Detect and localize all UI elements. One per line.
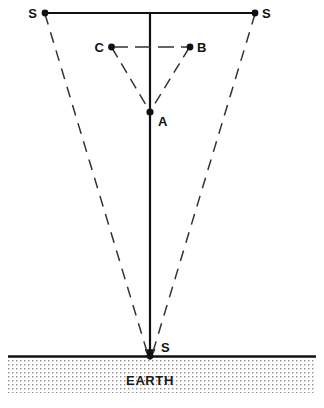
point-b-dot (187, 44, 194, 51)
source-ground-dot (147, 353, 154, 360)
source-ground-label: S (161, 340, 170, 355)
figure-root: EARTH S S C B A S (0, 0, 324, 408)
segment-b-to-a (151, 48, 189, 110)
source-left-label: S (28, 6, 37, 21)
source-right-label: S (262, 6, 271, 21)
ray-left-source-to-ground (45, 14, 148, 355)
parallax-diagram: EARTH S S C B A S (0, 0, 324, 408)
point-b-label: B (197, 40, 206, 55)
source-left-dot (42, 10, 49, 17)
earth-label: EARTH (126, 373, 174, 388)
caption-strip (0, 398, 324, 408)
ray-right-source-to-ground (152, 14, 255, 355)
segment-c-to-a (112, 48, 149, 110)
point-c-label: C (95, 40, 105, 55)
source-right-dot (252, 10, 259, 17)
point-a-dot (146, 108, 153, 115)
point-c-dot (108, 44, 115, 51)
point-a-label: A (158, 114, 168, 129)
